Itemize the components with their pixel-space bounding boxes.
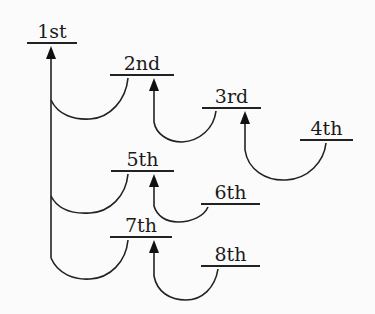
node-label-4th: 4th	[300, 119, 353, 138]
connector-layer	[0, 0, 375, 314]
node-label-3rd: 3rd	[202, 87, 261, 106]
node-label-5th: 5th	[111, 150, 174, 169]
arrowhead-3rd	[240, 111, 250, 124]
arrowhead-7th	[149, 240, 159, 253]
dependency-tree-diagram: 1st 2nd 3rd 4th 5th 6th 7th 8th	[0, 0, 375, 314]
arrowhead-1st	[46, 46, 56, 59]
connector-5th-to-1st	[51, 174, 128, 213]
node-label-7th: 7th	[110, 216, 172, 235]
arrowhead-2nd	[149, 78, 159, 91]
connector-7th-to-1st	[51, 240, 128, 279]
node-label-6th: 6th	[201, 183, 260, 202]
node-label-1st: 1st	[27, 22, 77, 41]
arrowhead-5th	[149, 174, 159, 187]
node-label-2nd: 2nd	[110, 54, 174, 73]
connector-2nd-to-1st	[51, 78, 128, 119]
node-label-8th: 8th	[201, 245, 260, 264]
